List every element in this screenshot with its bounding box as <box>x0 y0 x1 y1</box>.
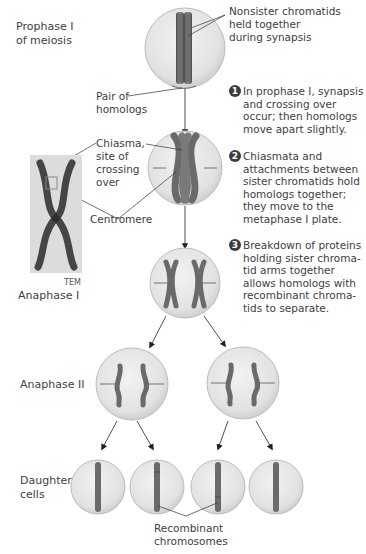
step-number-badge: 3 <box>229 239 241 251</box>
label-pair-of-homologs: Pair of homologs <box>96 90 147 116</box>
step-text: Breakdown of proteins holding sister chr… <box>243 239 361 315</box>
cell-anaphase1 <box>150 248 220 318</box>
step-1: 1 In prophase I, synapsis and crossing o… <box>229 85 364 140</box>
step-number-badge: 2 <box>229 150 241 162</box>
cell-prophase <box>145 8 225 89</box>
tem-micrograph <box>30 155 82 273</box>
cell-chiasma <box>148 131 222 205</box>
stage-daughter: Daughter cells <box>20 474 72 502</box>
label-recombinant: Recombinant chromosomes <box>154 522 228 548</box>
cell-anaphase2-right <box>207 347 279 419</box>
step-text: Chiasmata and attachments between sister… <box>243 150 360 226</box>
label-chiasma: Chiasma, site of crossing over <box>96 137 145 189</box>
cell-anaphase2-left <box>96 348 168 420</box>
stage-anaphase1: Anaphase I <box>18 289 79 303</box>
daughter-cells <box>71 460 303 514</box>
step-3: 3 Breakdown of proteins holding sister c… <box>229 239 364 319</box>
step-text: In prophase I, synapsis and crossing ove… <box>243 85 363 135</box>
step-2: 2 Chiasmata and attachments between sist… <box>229 150 364 230</box>
stage-prophase: Prophase I of meiosis <box>16 20 73 48</box>
step-number-badge: 1 <box>229 85 241 97</box>
label-nonsister-chromatids: Nonsister chromatids held together durin… <box>229 5 341 44</box>
label-centromere: Centromere <box>90 213 152 226</box>
tem-label: TEM <box>64 278 81 287</box>
stage-anaphase2: Anaphase II <box>20 378 84 392</box>
